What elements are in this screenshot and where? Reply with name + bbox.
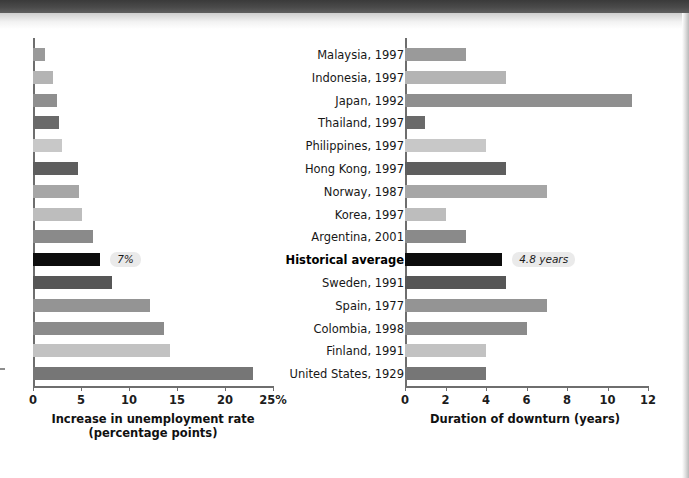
bar-left-13 bbox=[33, 344, 170, 357]
bar-left-0 bbox=[33, 48, 45, 61]
tick-mark-right-1 bbox=[446, 386, 447, 391]
tick-label-right-4: 8 bbox=[563, 393, 571, 407]
tick-label-left-1: 5 bbox=[77, 393, 85, 407]
right-axis-title: Duration of downturn (years) bbox=[400, 412, 650, 426]
bar-right-6 bbox=[405, 185, 547, 198]
tick-label-right-1: 2 bbox=[441, 393, 449, 407]
tick-mark-left-3 bbox=[177, 386, 178, 391]
tick-label-left-0: 0 bbox=[29, 393, 37, 407]
figure-page: 0510152025% Increase in unemployment rat… bbox=[0, 0, 689, 478]
tick-mark-left-1 bbox=[81, 386, 82, 391]
bar-left-4 bbox=[33, 139, 62, 152]
tick-label-left-4: 20 bbox=[217, 393, 233, 407]
bar-left-3 bbox=[33, 116, 59, 129]
right-chart-panel: 024681012 Duration of downturn (years) 4… bbox=[340, 0, 689, 478]
tick-label-left-5: 25% bbox=[259, 393, 287, 407]
bar-right-11 bbox=[405, 299, 547, 312]
tick-mark-left-0 bbox=[33, 386, 34, 391]
bar-right-9 bbox=[405, 253, 502, 266]
tick-mark-left-4 bbox=[225, 386, 226, 391]
tick-mark-left-2 bbox=[129, 386, 130, 391]
bar-right-2 bbox=[405, 94, 632, 107]
value-badge-left: 7% bbox=[110, 252, 141, 267]
tick-mark-right-6 bbox=[648, 386, 649, 391]
value-badge-right: 4.8 years bbox=[512, 252, 575, 267]
bar-right-13 bbox=[405, 344, 486, 357]
tick-label-right-0: 0 bbox=[401, 393, 409, 407]
tick-label-right-5: 10 bbox=[599, 393, 615, 407]
left-axis-title: Increase in unemployment rate (percentag… bbox=[33, 412, 273, 440]
bar-left-9 bbox=[33, 253, 100, 266]
tick-mark-right-5 bbox=[608, 386, 609, 391]
left-axis-title-line2: (percentage points) bbox=[33, 426, 273, 440]
tick-label-right-3: 6 bbox=[522, 393, 530, 407]
bar-left-1 bbox=[33, 71, 53, 84]
tick-mark-right-4 bbox=[567, 386, 568, 391]
bar-right-8 bbox=[405, 230, 466, 243]
bar-left-11 bbox=[33, 299, 150, 312]
tick-mark-left-5 bbox=[273, 386, 274, 391]
tick-mark-right-3 bbox=[527, 386, 528, 391]
left-axis-title-line1: Increase in unemployment rate bbox=[33, 412, 273, 426]
bar-right-14 bbox=[405, 367, 486, 380]
bar-right-0 bbox=[405, 48, 466, 61]
bar-left-6 bbox=[33, 185, 79, 198]
bar-left-7 bbox=[33, 208, 82, 221]
tick-label-right-6: 12 bbox=[640, 393, 656, 407]
tick-label-left-2: 10 bbox=[121, 393, 137, 407]
tick-mark-right-0 bbox=[405, 386, 406, 391]
bar-right-10 bbox=[405, 276, 506, 289]
bar-right-1 bbox=[405, 71, 506, 84]
bar-left-5 bbox=[33, 162, 78, 175]
tick-mark-right-2 bbox=[486, 386, 487, 391]
bar-right-3 bbox=[405, 116, 425, 129]
bar-right-7 bbox=[405, 208, 446, 221]
bar-left-14 bbox=[33, 367, 253, 380]
bar-right-12 bbox=[405, 322, 527, 335]
bar-left-2 bbox=[33, 94, 57, 107]
tick-label-left-3: 15 bbox=[169, 393, 185, 407]
left-x-axis-line bbox=[33, 386, 273, 388]
bar-left-8 bbox=[33, 230, 93, 243]
right-axis-title-line1: Duration of downturn (years) bbox=[400, 412, 650, 426]
bar-right-4 bbox=[405, 139, 486, 152]
bar-right-5 bbox=[405, 162, 506, 175]
bar-left-10 bbox=[33, 276, 112, 289]
bar-left-12 bbox=[33, 322, 164, 335]
tick-label-right-2: 4 bbox=[482, 393, 490, 407]
